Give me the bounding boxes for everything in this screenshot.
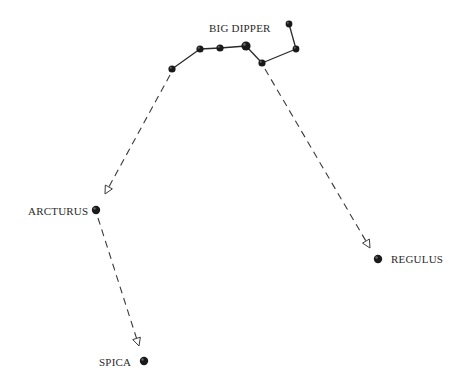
arcturus-label: ARCTURUS xyxy=(28,205,88,217)
star-icon xyxy=(168,65,175,72)
star-chart: ARCTURUSSPICAREGULUS BIG DIPPER xyxy=(0,0,468,385)
dipper-to-regulus-pointer xyxy=(265,69,370,248)
constellation-line xyxy=(262,49,296,63)
regulus-label: REGULUS xyxy=(391,253,443,265)
target-spica: SPICA xyxy=(99,356,148,368)
star-icon xyxy=(140,357,148,365)
target-stars: ARCTURUSSPICAREGULUS xyxy=(28,205,443,368)
constellation-line xyxy=(289,24,296,49)
constellation-line xyxy=(172,49,200,69)
star-icon xyxy=(216,44,223,51)
arrowhead-icon xyxy=(105,185,112,194)
dashed-pointer-lines xyxy=(98,69,370,346)
spica-label: SPICA xyxy=(99,356,131,368)
star-icon xyxy=(293,46,300,53)
arrowhead-icon xyxy=(363,239,370,248)
arcturus-to-spica-pointer xyxy=(98,218,140,346)
star-icon xyxy=(286,21,293,28)
star-icon xyxy=(241,41,250,50)
target-regulus: REGULUS xyxy=(374,253,443,265)
star-chart-canvas: ARCTURUSSPICAREGULUS BIG DIPPER xyxy=(0,0,468,385)
arrowhead-icon xyxy=(133,337,141,346)
target-arcturus: ARCTURUS xyxy=(28,205,100,217)
star-icon xyxy=(374,255,382,263)
star-icon xyxy=(258,59,265,66)
star-icon xyxy=(92,206,100,214)
big-dipper-label: BIG DIPPER xyxy=(209,22,271,34)
arc-to-arcturus-pointer xyxy=(105,75,170,194)
star-icon xyxy=(196,45,203,52)
